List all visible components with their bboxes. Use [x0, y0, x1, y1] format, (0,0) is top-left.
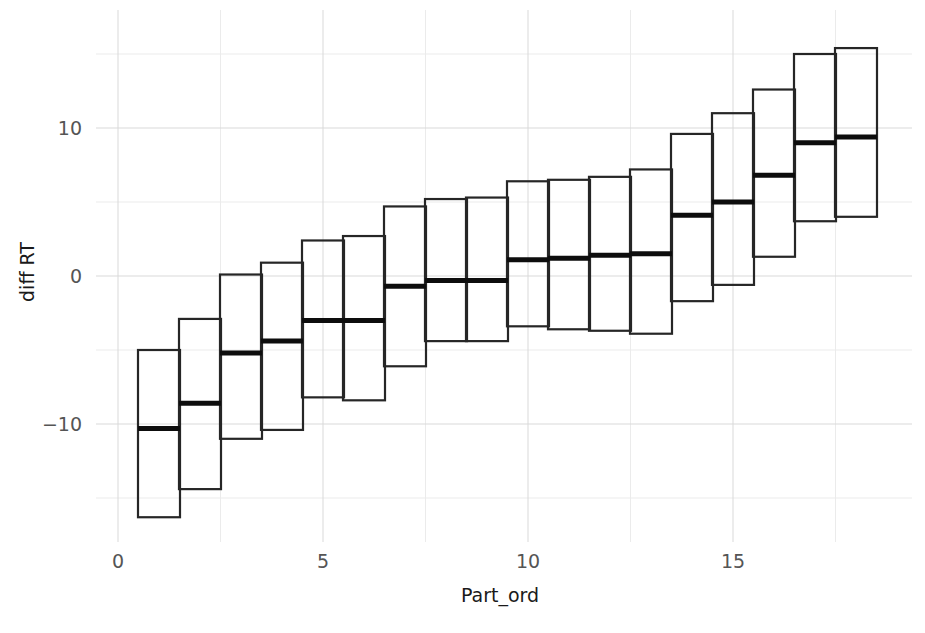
box-11 — [548, 180, 590, 329]
box-15 — [712, 113, 754, 285]
x-axis-title: Part_ord — [461, 584, 539, 607]
y-tick-label: 10 — [58, 117, 82, 139]
box-8 — [425, 199, 467, 341]
box-9 — [466, 198, 508, 342]
x-tick-label: 15 — [721, 550, 745, 572]
box-18 — [835, 48, 877, 217]
y-tick-label: 0 — [70, 265, 82, 287]
x-tick-label: 5 — [317, 550, 329, 572]
y-axis-title: diff RT — [16, 242, 38, 302]
x-tick-label: 10 — [516, 550, 540, 572]
box-10 — [507, 181, 549, 326]
boxplot-svg: 051015 −10010 Part_ord diff RT — [0, 0, 925, 633]
chart-figure: 051015 −10010 Part_ord diff RT — [0, 0, 925, 633]
box-4 — [261, 263, 303, 430]
x-tick-label: 0 — [112, 550, 124, 572]
box-3 — [220, 275, 262, 439]
box-17 — [794, 54, 836, 221]
box-1 — [138, 350, 180, 517]
y-tick-label: −10 — [42, 413, 82, 435]
